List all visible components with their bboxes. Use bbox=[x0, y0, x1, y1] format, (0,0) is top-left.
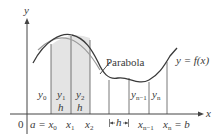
tick-xn-1: xn−1 bbox=[137, 118, 154, 132]
diagram-canvas: y x 0 Parabola y = f(x) y0 y1 y2 yn−1 yn… bbox=[0, 0, 215, 134]
tick-x0: a = x0 bbox=[30, 118, 57, 132]
svg-text:h: h bbox=[116, 116, 122, 128]
simpsons-rule-figure: y x 0 Parabola y = f(x) y0 y1 y2 yn−1 yn… bbox=[0, 0, 215, 134]
tick-x2: x2 bbox=[84, 118, 94, 132]
ordinate-y0: y0 bbox=[37, 88, 47, 102]
shaded-region bbox=[51, 35, 90, 114]
tick-xn: xn = b bbox=[162, 118, 190, 132]
width-label-h1: h bbox=[58, 101, 64, 113]
x-axis-arrow-icon bbox=[198, 112, 204, 117]
ordinate-yn-1: yn−1 bbox=[130, 88, 147, 102]
y-axis-arrow-icon bbox=[25, 18, 30, 24]
y-axis-label: y bbox=[23, 4, 29, 16]
h-interval-marker: h bbox=[110, 116, 129, 128]
origin-label: 0 bbox=[18, 118, 24, 130]
width-label-h2: h bbox=[77, 101, 83, 113]
ordinate-yn: yn bbox=[151, 88, 161, 102]
parabola-label: Parabola bbox=[106, 56, 145, 68]
curve-label: y = f(x) bbox=[175, 54, 209, 67]
x-axis-label: x bbox=[205, 107, 211, 119]
tick-x1: x1 bbox=[65, 118, 75, 132]
